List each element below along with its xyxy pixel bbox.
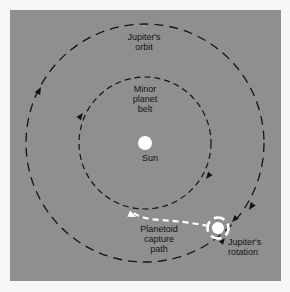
label-jupiters-orbit: Jupiter's orbit: [102, 32, 186, 52]
jupiter-body-icon: [212, 222, 224, 234]
label-minor-planet-belt: Minor planet belt: [113, 84, 177, 114]
label-jupiters-rotation: Jupiter's rotation: [228, 237, 290, 257]
sun-body-icon: [138, 136, 152, 150]
orbit-direction-arrow-inner-lower-right: [204, 172, 213, 181]
jupiter-rotation-arrow-upper: [230, 215, 239, 224]
label-planetoid-capture-path: Planetoid capture path: [123, 224, 195, 254]
figure-canvas: Jupiter's orbit Minor planet belt Sun Pl…: [0, 0, 290, 292]
diagram-panel: Jupiter's orbit Minor planet belt Sun Pl…: [10, 10, 281, 281]
label-sun: Sun: [122, 153, 178, 163]
